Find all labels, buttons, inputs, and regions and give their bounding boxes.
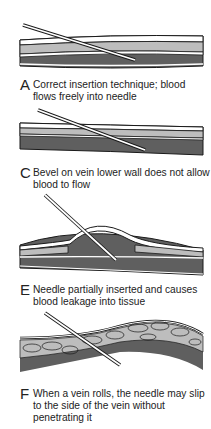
vein-illustration-e <box>0 190 211 290</box>
vein-illustration-f <box>0 310 211 385</box>
panel-c: C Bevel on vein lower wall does not allo… <box>0 105 211 200</box>
caption-e: E Needle partially inserted and causes b… <box>20 284 210 308</box>
vein-illustration-c <box>0 105 211 165</box>
caption-text-a: Correct insertion technique; blood flows… <box>20 79 210 103</box>
panel-f: F When a vein rolls, the needle may slip… <box>0 310 211 429</box>
panel-letter-f: F <box>20 386 29 401</box>
panel-a: A Correct insertion technique; blood flo… <box>0 0 211 100</box>
caption-text-c: Bevel on vein lower wall does not allow … <box>20 167 210 191</box>
panel-letter-a: A <box>20 77 30 92</box>
panel-letter-e: E <box>20 282 30 297</box>
caption-a: A Correct insertion technique; blood flo… <box>20 79 210 103</box>
panel-letter-c: C <box>20 165 31 180</box>
panel-e: E Needle partially inserted and causes b… <box>0 190 211 330</box>
vein-illustration-a <box>0 0 211 75</box>
caption-f: F When a vein rolls, the needle may slip… <box>20 388 210 424</box>
caption-text-e: Needle partially inserted and causes blo… <box>20 284 210 308</box>
caption-text-f: When a vein rolls, the needle may slip t… <box>20 388 210 424</box>
caption-c: C Bevel on vein lower wall does not allo… <box>20 167 210 191</box>
